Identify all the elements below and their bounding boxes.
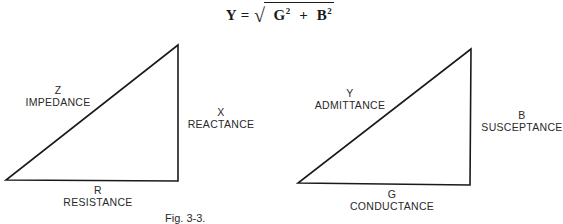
- susceptance-label: B SUSCEPTANCE: [481, 109, 562, 133]
- reactance-symbol: X: [188, 106, 255, 118]
- impedance-symbol: Z: [25, 84, 90, 96]
- susceptance-symbol: B: [481, 109, 562, 121]
- conductance-symbol: G: [350, 188, 434, 200]
- susceptance-name: SUSCEPTANCE: [481, 121, 562, 133]
- reactance-name: REACTANCE: [188, 118, 255, 130]
- impedance-triangle: [6, 45, 178, 181]
- admittance-name: ADMITTANCE: [315, 99, 385, 111]
- figure-caption: Fig. 3-3.: [165, 212, 205, 224]
- impedance-label: Z IMPEDANCE: [25, 84, 90, 108]
- resistance-name: RESISTANCE: [63, 196, 132, 208]
- conductance-label: G CONDUCTANCE: [350, 188, 434, 212]
- resistance-label: R RESISTANCE: [63, 184, 132, 208]
- admittance-triangle: [298, 49, 471, 185]
- resistance-symbol: R: [63, 184, 132, 196]
- conductance-name: CONDUCTANCE: [350, 200, 434, 212]
- admittance-symbol: Y: [315, 87, 385, 99]
- admittance-label: Y ADMITTANCE: [315, 87, 385, 111]
- impedance-name: IMPEDANCE: [25, 96, 90, 108]
- reactance-label: X REACTANCE: [188, 106, 255, 130]
